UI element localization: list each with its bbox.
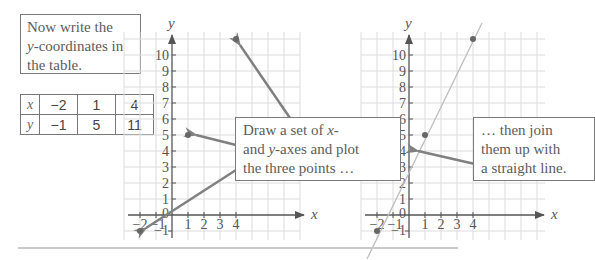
y-tick-label: 6 [162,112,169,127]
x-tick-label: −1 [388,217,403,232]
y-tick-label: 3 [162,160,169,175]
y-tick-label: 10 [392,48,406,63]
x-tick-labels-left: −2 −1 1 2 3 4 [133,217,240,232]
y-tick-label: 7 [162,96,169,111]
y-tick-label: 1 [399,192,406,207]
x-axis-label: x [310,206,318,222]
point-neg2-neg1 [137,228,143,234]
y-tick-label: 8 [399,80,406,95]
x-tick-label: 4 [470,217,477,232]
y-tick-label: 7 [399,96,406,111]
x-tick-label: 1 [422,217,429,232]
x-tick-labels-right: −2 −1 1 2 3 4 [370,217,477,232]
callout-join-line: … then join them up with a straight line… [473,117,595,181]
x-tick-label: 1 [185,217,192,232]
y-axis-label: y [166,15,175,31]
y-tick-label: 4 [162,144,169,159]
callout-line-1: … then join [481,121,587,140]
y-tick-label: 5 [162,128,169,143]
callout-line-3: the three points … [243,159,393,178]
arrow-to-point-4-11 [240,45,290,118]
point-4-11 [470,36,476,42]
divider [18,247,458,249]
x-tick-label: 3 [454,217,461,232]
point-4-11 [233,36,239,42]
y-axis-label: y [403,15,412,31]
x-tick-label: 3 [217,217,224,232]
arrow-to-point-1-5 [196,135,236,145]
arrow-to-line [418,151,475,164]
point-neg2-neg1 [374,228,380,234]
y-tick-label: 8 [162,80,169,95]
y-tick-label: 1 [162,192,169,207]
x-tick-label: 4 [233,217,240,232]
callout-line-2: and y-axes and plot [243,140,393,159]
x-tick-label: 2 [438,217,445,232]
y-tick-label: 9 [399,64,406,79]
point-1-5 [422,132,428,138]
callout-line-2: them up with [481,140,587,159]
y-tick-label: 9 [162,64,169,79]
callout-plot-points: Draw a set of x- and y-axes and plot the… [235,117,401,181]
callout-line-1: Draw a set of x- [243,121,393,140]
callout-line-3: a straight line. [481,159,587,178]
x-tick-label: 2 [201,217,208,232]
y-tick-label: 2 [162,176,169,191]
point-1-5 [185,132,191,138]
x-axis-label: x [550,206,558,222]
y-tick-label: 10 [155,48,169,63]
